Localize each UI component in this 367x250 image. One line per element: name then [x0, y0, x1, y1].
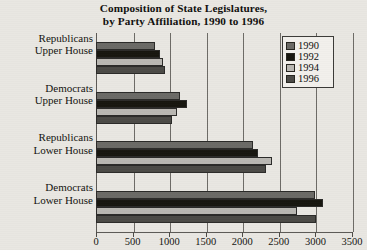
- gridline-3500: [353, 33, 354, 232]
- bar-1990: [96, 141, 253, 149]
- x-tick-label: 1500: [195, 236, 216, 248]
- bar-1992: [96, 149, 258, 157]
- legend-label: 1996: [298, 73, 319, 84]
- bar-1992: [96, 50, 160, 58]
- bar-group: [96, 182, 352, 232]
- chart-title: Composition of State Legislatures, by Pa…: [0, 2, 367, 28]
- x-tick-label: 500: [125, 236, 141, 248]
- bar-1996: [96, 66, 165, 74]
- x-tick-label: 3000: [305, 236, 326, 248]
- bar-1996: [96, 215, 316, 223]
- x-tick-label: 0: [93, 236, 98, 248]
- legend-item: 1992: [286, 51, 329, 62]
- legend-swatch-1992: [286, 53, 295, 61]
- category-label-line: Upper House: [2, 94, 93, 107]
- bar-1992: [96, 100, 187, 108]
- category-label-line: Republicans: [2, 32, 93, 45]
- category-label: DemocratsLower House: [2, 181, 96, 206]
- category-label: RepublicansUpper House: [2, 32, 96, 57]
- x-axis-line: [96, 232, 352, 233]
- x-tick-label: 2000: [232, 236, 253, 248]
- legend-swatch-1994: [286, 64, 295, 72]
- category-label: RepublicansLower House: [2, 131, 96, 156]
- bar-1990: [96, 92, 180, 100]
- bar-group: [96, 83, 352, 133]
- category-label-line: Democrats: [2, 181, 93, 194]
- category-label-line: Democrats: [2, 82, 93, 95]
- bar-1996: [96, 165, 266, 173]
- category-label-line: Republicans: [2, 131, 93, 144]
- category-label-line: Lower House: [2, 194, 93, 207]
- legend-label: 1994: [298, 62, 319, 73]
- bar-1994: [96, 157, 272, 165]
- bar-1990: [96, 191, 315, 199]
- legend-swatch-1990: [286, 42, 295, 50]
- bar-1996: [96, 116, 172, 124]
- x-tick-label: 3500: [342, 236, 363, 248]
- category-label-line: Upper House: [2, 44, 93, 57]
- chart-page: Composition of State Legislatures, by Pa…: [0, 0, 367, 250]
- legend-item: 1994: [286, 62, 329, 73]
- bar-1992: [96, 199, 323, 207]
- legend-box: 1990199219941996: [282, 36, 334, 88]
- bar-1994: [96, 207, 297, 215]
- legend-item: 1996: [286, 73, 329, 84]
- bar-1990: [96, 42, 155, 50]
- chart-title-line-1: Composition of State Legislatures,: [0, 2, 367, 15]
- bar-group: [96, 133, 352, 183]
- legend-label: 1990: [298, 40, 319, 51]
- bar-1994: [96, 108, 177, 116]
- category-axis-labels: RepublicansUpper HouseDemocratsUpper Hou…: [0, 33, 96, 232]
- legend-swatch-1996: [286, 75, 295, 83]
- legend-item: 1990: [286, 40, 329, 51]
- x-tick-label: 1000: [159, 236, 180, 248]
- x-tick-label: 2500: [268, 236, 289, 248]
- legend-label: 1992: [298, 51, 319, 62]
- category-label: DemocratsUpper House: [2, 82, 96, 107]
- category-label-line: Lower House: [2, 144, 93, 157]
- chart-title-line-2: by Party Affiliation, 1990 to 1996: [0, 15, 367, 28]
- bar-1994: [96, 58, 163, 66]
